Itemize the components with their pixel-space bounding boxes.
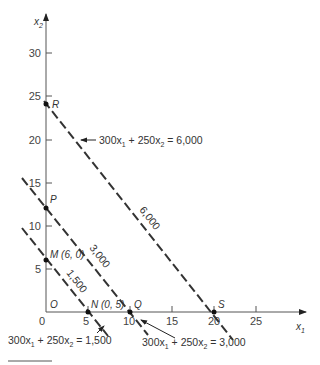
x-axis-label: x1 — [295, 321, 305, 334]
y-tick-labels: 5 10 15 20 25 30 — [29, 47, 41, 275]
lp-isoprofit-diagram: 5 10 15 20 25 30 0 5 10 15 20 25 x2 x1 R… — [0, 0, 320, 365]
svg-text:0: 0 — [39, 315, 45, 327]
equation-1500: 300x1 + 250x2 = 1,500 — [8, 334, 112, 348]
point-label-m: M (6, 0) — [50, 249, 84, 260]
equation-6000: 300x1 + 250x2 = 6,000 — [99, 134, 203, 148]
point-label-q: Q — [134, 299, 142, 310]
svg-text:20: 20 — [29, 134, 41, 146]
svg-text:10: 10 — [29, 220, 41, 232]
y-axis-label: x2 — [33, 16, 43, 29]
line-label-6000: 6,000 — [137, 204, 163, 232]
y-ticks — [46, 53, 52, 269]
svg-text:25: 25 — [250, 315, 262, 327]
point-label-p: P — [50, 194, 57, 205]
point-label-o: O — [50, 299, 58, 310]
svg-text:25: 25 — [29, 90, 41, 102]
svg-text:15: 15 — [166, 315, 178, 327]
svg-text:30: 30 — [29, 47, 41, 59]
point-label-r: R — [52, 99, 59, 110]
equation-3000: 300x1 + 250x2 = 3,000 — [142, 336, 246, 350]
point-label-n: N (0, 5) — [91, 299, 124, 310]
svg-text:15: 15 — [29, 177, 41, 189]
point-label-s: S — [218, 299, 225, 310]
callout-1500-arrow — [97, 326, 104, 333]
svg-text:5: 5 — [83, 315, 89, 327]
svg-text:5: 5 — [35, 263, 41, 275]
line-label-1500: 1,500 — [64, 267, 90, 295]
